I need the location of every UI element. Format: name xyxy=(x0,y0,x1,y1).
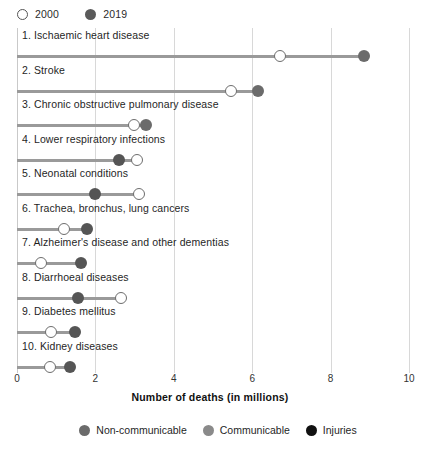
data-point-2000 xyxy=(58,223,70,235)
dumbbell-marker-pair xyxy=(0,326,436,339)
row-label: 3. Chronic obstructive pulmonary disease xyxy=(22,98,219,110)
data-point-2019 xyxy=(81,223,93,235)
dumbbell-rows: 1. Ischaemic heart disease2. Stroke3. Ch… xyxy=(0,28,436,373)
data-point-2000 xyxy=(35,257,47,269)
category-legend-item-non-communicable: Non-communicable xyxy=(79,424,186,436)
data-point-2019 xyxy=(72,292,84,304)
dumbbell-marker-pair xyxy=(0,154,436,167)
chart-row: 2. Stroke xyxy=(0,63,436,98)
data-point-2019 xyxy=(75,257,87,269)
open-circle-icon xyxy=(17,9,28,20)
chart-row: 5. Neonatal conditions xyxy=(0,166,436,201)
chart-row: 9. Diabetes mellitus xyxy=(0,304,436,339)
x-axis-label: Number of deaths (in millions) xyxy=(0,391,420,403)
row-label: 7. Alzheimer's disease and other dementi… xyxy=(22,236,229,248)
row-label: 2. Stroke xyxy=(22,64,65,76)
chart-row: 7. Alzheimer's disease and other dementi… xyxy=(0,235,436,270)
connector-line xyxy=(17,124,146,127)
data-point-2000 xyxy=(44,361,56,373)
connector-line xyxy=(17,262,81,265)
legend-swatch-icon xyxy=(79,425,90,436)
data-point-2019 xyxy=(252,85,264,97)
year-legend-label: 2000 xyxy=(35,8,59,20)
connector-line xyxy=(17,193,139,196)
x-tick-label: 10 xyxy=(403,373,414,384)
category-legend-label: Communicable xyxy=(220,424,290,436)
legend-swatch-icon xyxy=(306,425,317,436)
connector-line xyxy=(17,55,364,58)
filled-circle-icon xyxy=(85,9,96,20)
connector-line xyxy=(17,90,258,93)
dumbbell-marker-pair xyxy=(0,85,436,98)
data-point-2019 xyxy=(89,188,101,200)
dumbbell-marker-pair xyxy=(0,188,436,201)
dumbbell-marker-pair xyxy=(0,361,436,374)
data-point-2000 xyxy=(45,326,57,338)
data-point-2000 xyxy=(115,292,127,304)
category-legend-item-injuries: Injuries xyxy=(306,424,357,436)
year-legend-item-2019: 2019 xyxy=(85,8,127,20)
data-point-2000 xyxy=(274,50,286,62)
data-point-2019 xyxy=(69,326,81,338)
data-point-2000 xyxy=(128,119,140,131)
connector-line xyxy=(17,228,87,231)
x-tick-label: 2 xyxy=(93,373,99,384)
category-legend-label: Non-communicable xyxy=(96,424,186,436)
x-tick-label: 8 xyxy=(328,373,334,384)
row-label: 1. Ischaemic heart disease xyxy=(22,29,150,41)
category-legend-item-communicable: Communicable xyxy=(203,424,290,436)
chart-row: 3. Chronic obstructive pulmonary disease xyxy=(0,97,436,132)
row-label: 10. Kidney diseases xyxy=(22,340,118,352)
category-legend-label: Injuries xyxy=(323,424,357,436)
dumbbell-marker-pair xyxy=(0,292,436,305)
data-point-2019 xyxy=(113,154,125,166)
dumbbell-marker-pair xyxy=(0,50,436,63)
chart-row: 6. Trachea, bronchus, lung cancers xyxy=(0,201,436,236)
x-tick-label: 0 xyxy=(14,373,20,384)
chart-row: 10. Kidney diseases xyxy=(0,339,436,374)
data-point-2000 xyxy=(131,154,143,166)
year-legend: 2000 2019 xyxy=(17,6,127,22)
row-label: 4. Lower respiratory infections xyxy=(22,133,165,145)
x-axis-ticks: 0246810 xyxy=(0,373,436,393)
category-legend: Non-communicable Communicable Injuries xyxy=(0,424,436,436)
chart-row: 1. Ischaemic heart disease xyxy=(0,28,436,63)
year-legend-label: 2019 xyxy=(103,8,127,20)
row-label: 5. Neonatal conditions xyxy=(22,167,128,179)
data-point-2019 xyxy=(64,361,76,373)
data-point-2019 xyxy=(358,50,370,62)
data-point-2000 xyxy=(133,188,145,200)
legend-swatch-icon xyxy=(203,425,214,436)
dumbbell-marker-pair xyxy=(0,223,436,236)
dumbbell-marker-pair xyxy=(0,119,436,132)
chart-plot-area: 1. Ischaemic heart disease2. Stroke3. Ch… xyxy=(0,28,436,373)
year-legend-item-2000: 2000 xyxy=(17,8,59,20)
data-point-2019 xyxy=(140,119,152,131)
data-point-2000 xyxy=(225,85,237,97)
dumbbell-marker-pair xyxy=(0,257,436,270)
connector-line xyxy=(17,297,121,300)
x-tick-label: 4 xyxy=(171,373,177,384)
chart-row: 8. Diarrhoeal diseases xyxy=(0,270,436,305)
row-label: 8. Diarrhoeal diseases xyxy=(22,271,129,283)
chart-row: 4. Lower respiratory infections xyxy=(0,132,436,167)
x-tick-label: 6 xyxy=(249,373,255,384)
row-label: 6. Trachea, bronchus, lung cancers xyxy=(22,202,189,214)
row-label: 9. Diabetes mellitus xyxy=(22,305,116,317)
